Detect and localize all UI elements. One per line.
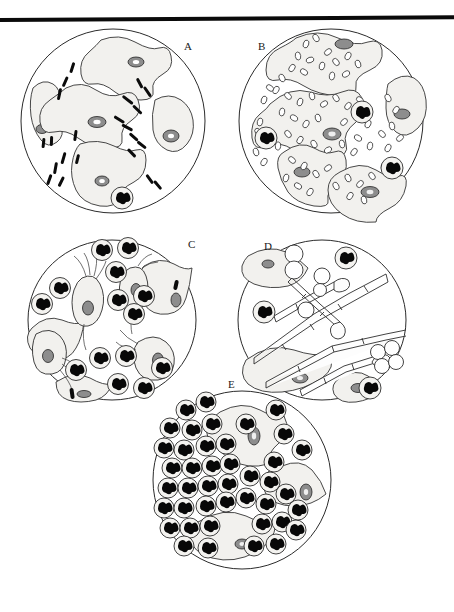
panel-a-label: A: [184, 40, 192, 52]
panel-d-field: [236, 238, 408, 402]
panel-e-field: [150, 388, 334, 572]
panel-e-label: E: [228, 378, 235, 390]
neutrophil-group-a: [111, 187, 133, 209]
panel-c-label: C: [188, 238, 196, 250]
figure-root: A: [0, 0, 454, 612]
panel-b-label: B: [258, 40, 266, 52]
panel-d-label: D: [264, 240, 272, 252]
panel-c-field: [26, 238, 198, 402]
panel-a-field: [18, 26, 208, 216]
panel-b-field: [236, 26, 426, 216]
top-divider-rule: [0, 15, 454, 22]
